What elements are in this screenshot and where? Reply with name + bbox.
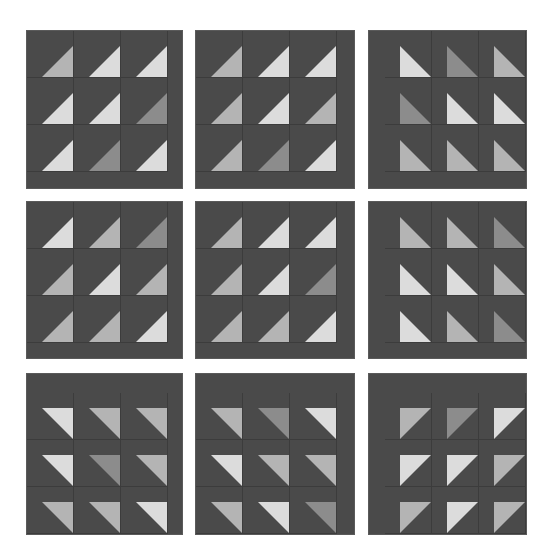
panel-7-cell-2-1: [27, 440, 74, 487]
panel-9-cell-3-1: [385, 487, 432, 534]
triangle-icon: [27, 125, 74, 172]
triangle-icon: [479, 296, 526, 343]
triangle-icon: [27, 249, 74, 296]
triangle-icon: [243, 31, 290, 78]
triangle-icon: [196, 487, 243, 534]
panel-8-cell-1-2: [243, 393, 290, 440]
panel-3-cell-3-1: [385, 125, 432, 172]
triangle-icon: [196, 393, 243, 440]
panel-9-cell-1-2: [432, 393, 479, 440]
panel-4-cell-3-1: [27, 296, 74, 343]
panel-5-cell-2-1: [196, 249, 243, 296]
triangle-icon: [243, 440, 290, 487]
puzzle-panel-3: [369, 31, 526, 188]
panel-grid: [385, 31, 526, 172]
triangle-icon: [121, 125, 168, 172]
panel-9-cell-2-3: [479, 440, 526, 487]
panel-8-cell-2-3: [290, 440, 337, 487]
triangle-icon: [385, 296, 432, 343]
panel-5-cell-3-3: [290, 296, 337, 343]
panel-8-cell-2-1: [196, 440, 243, 487]
panel-3-cell-3-3: [479, 125, 526, 172]
panel-4-cell-3-2: [74, 296, 121, 343]
triangle-icon: [290, 249, 337, 296]
panel-3-cell-1-2: [432, 31, 479, 78]
puzzle-panel-8: [196, 374, 354, 534]
panel-8-cell-3-2: [243, 487, 290, 534]
panel-5-cell-2-3: [290, 249, 337, 296]
triangle-icon: [290, 393, 337, 440]
panel-6-cell-1-1: [385, 202, 432, 249]
triangle-icon: [432, 125, 479, 172]
triangle-icon: [121, 440, 168, 487]
triangle-icon: [27, 393, 74, 440]
triangle-icon: [27, 296, 74, 343]
triangle-icon: [121, 296, 168, 343]
panel-6-cell-1-2: [432, 202, 479, 249]
triangle-icon: [290, 440, 337, 487]
triangle-icon: [385, 125, 432, 172]
panel-6-cell-3-1: [385, 296, 432, 343]
puzzle-panel-9: [369, 374, 526, 534]
panel-1-cell-3-3: [121, 125, 168, 172]
puzzle-panel-5: [196, 202, 354, 358]
panel-2-cell-1-2: [243, 31, 290, 78]
triangle-icon: [385, 249, 432, 296]
panel-8-cell-3-1: [196, 487, 243, 534]
panel-8-cell-2-2: [243, 440, 290, 487]
triangle-icon: [121, 202, 168, 249]
triangle-icon: [196, 440, 243, 487]
triangle-icon: [74, 440, 121, 487]
panel-8-cell-3-3: [290, 487, 337, 534]
panel-7-cell-2-3: [121, 440, 168, 487]
panel-6-cell-2-3: [479, 249, 526, 296]
panel-4-cell-2-2: [74, 249, 121, 296]
panel-3-cell-2-1: [385, 78, 432, 125]
triangle-icon: [196, 78, 243, 125]
panel-6-cell-3-3: [479, 296, 526, 343]
panel-4-cell-1-3: [121, 202, 168, 249]
panel-6-cell-2-1: [385, 249, 432, 296]
triangle-icon: [385, 31, 432, 78]
triangle-icon: [479, 249, 526, 296]
triangle-icon: [479, 393, 526, 440]
puzzle-panel-4: [27, 202, 182, 358]
panel-3-cell-3-2: [432, 125, 479, 172]
triangle-icon: [243, 249, 290, 296]
panel-grid: [385, 393, 526, 534]
panel-2-cell-2-3: [290, 78, 337, 125]
panel-8-cell-1-1: [196, 393, 243, 440]
triangle-icon: [196, 296, 243, 343]
panel-9-cell-3-3: [479, 487, 526, 534]
panel-1-cell-2-2: [74, 78, 121, 125]
panel-3-cell-2-3: [479, 78, 526, 125]
panel-9-cell-2-2: [432, 440, 479, 487]
triangle-icon: [432, 78, 479, 125]
triangle-icon: [385, 440, 432, 487]
panel-5-cell-1-1: [196, 202, 243, 249]
triangle-icon: [432, 393, 479, 440]
panel-3-cell-1-3: [479, 31, 526, 78]
triangle-icon: [290, 78, 337, 125]
panel-7-cell-3-3: [121, 487, 168, 534]
panel-4-cell-1-1: [27, 202, 74, 249]
panel-7-cell-3-2: [74, 487, 121, 534]
panel-1-cell-2-1: [27, 78, 74, 125]
triangle-icon: [27, 202, 74, 249]
puzzle-panel-2: [196, 31, 354, 188]
panel-7-cell-3-1: [27, 487, 74, 534]
panel-1-cell-1-3: [121, 31, 168, 78]
panel-5-cell-1-2: [243, 202, 290, 249]
panel-grid: [27, 393, 168, 534]
panel-5-cell-1-3: [290, 202, 337, 249]
panel-3-cell-1-1: [385, 31, 432, 78]
panel-5-cell-3-2: [243, 296, 290, 343]
panel-9-cell-1-1: [385, 393, 432, 440]
panel-grid: [385, 202, 526, 343]
triangle-icon: [479, 202, 526, 249]
triangle-icon: [121, 249, 168, 296]
triangle-icon: [479, 487, 526, 534]
triangle-icon: [432, 440, 479, 487]
panel-2-cell-3-3: [290, 125, 337, 172]
triangle-icon: [385, 487, 432, 534]
